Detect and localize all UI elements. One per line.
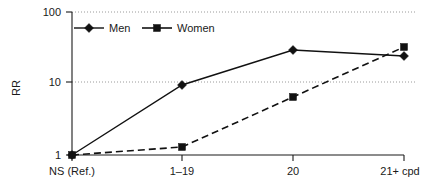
series-women-point-2: [290, 94, 297, 101]
rr-line-chart: 100 10 1 RR NS (Ref.) 1–19 20 21+ cpd: [0, 0, 427, 184]
x-tick-label-ns: NS (Ref.): [49, 165, 95, 177]
series-women-point-1: [179, 144, 186, 151]
legend-swatch-men-diamond-icon: [85, 24, 94, 33]
legend-swatch-women-square-icon: [154, 25, 161, 32]
x-axis-tick-labels: NS (Ref.) 1–19 20 21+ cpd: [49, 165, 420, 177]
series-women-point-3: [401, 44, 408, 51]
chart-page: 100 10 1 RR NS (Ref.) 1–19 20 21+ cpd: [0, 0, 427, 184]
series-men-point-3: [400, 52, 409, 61]
series-women: [69, 44, 408, 159]
legend-label-women: Women: [177, 22, 215, 34]
legend-entry-women[interactable]: Women: [142, 22, 215, 34]
y-tick-label-10: 10: [49, 76, 61, 88]
x-tick-label-21plus: 21+ cpd: [380, 165, 419, 177]
y-axis-title: RR: [10, 80, 22, 96]
y-tick-label-100: 100: [43, 6, 61, 18]
x-tick-label-20: 20: [287, 165, 299, 177]
series-men-point-2: [289, 46, 298, 55]
legend-entry-men[interactable]: Men: [74, 22, 130, 34]
series-men-point-1: [178, 81, 187, 90]
y-tick-label-1: 1: [55, 149, 61, 161]
y-axis-tick-labels: 100 10 1: [43, 6, 61, 161]
legend-label-men: Men: [109, 22, 130, 34]
series-men-line: [72, 50, 404, 155]
chart-legend: Men Women: [74, 22, 215, 34]
x-tick-label-1-19: 1–19: [170, 165, 194, 177]
series-women-line: [72, 47, 404, 155]
series-men: [68, 46, 409, 160]
axes: [66, 12, 404, 161]
